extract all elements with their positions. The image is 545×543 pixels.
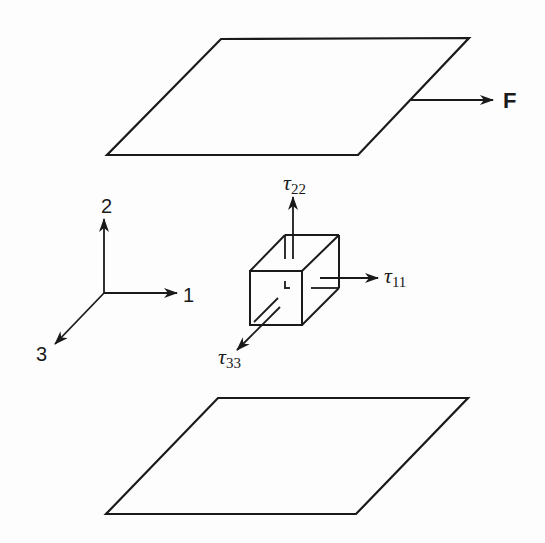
shear-flow-diagram: F 2 1 3 τ22 τ11 τ33: [0, 0, 545, 543]
diagram-svg: F 2 1 3 τ22 τ11 τ33: [0, 0, 545, 543]
coordinate-axes: 2 1 3: [36, 195, 194, 365]
tau33-sub: 33: [226, 355, 241, 371]
tau22-sub: 22: [291, 181, 306, 197]
fluid-element-cube: [250, 235, 339, 325]
axis-3-label: 3: [36, 343, 47, 365]
axis-3-arrow: [55, 293, 104, 344]
tau22-label: τ22: [283, 170, 306, 197]
tau11-sub: 11: [392, 274, 406, 290]
force-label: F: [503, 88, 516, 113]
tau11-label: τ11: [384, 263, 406, 290]
bottom-plate: [106, 398, 468, 514]
top-plate: [107, 38, 469, 155]
tau33-label: τ33: [218, 344, 241, 371]
axis-1-label: 1: [183, 284, 194, 306]
axis-2-label: 2: [101, 195, 112, 217]
tau33-arrow: [237, 307, 280, 350]
